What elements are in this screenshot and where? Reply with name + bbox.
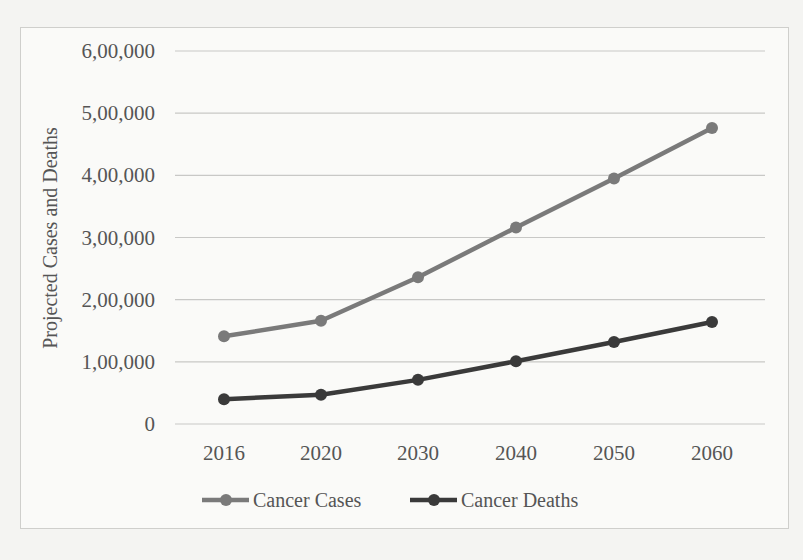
y-axis-ticks: 01,00,0002,00,0003,00,0004,00,0005,00,00… [82,39,156,436]
data-point [412,271,424,283]
legend-item: Cancer Cases [202,489,362,511]
data-point [608,172,620,184]
y-tick-label: 6,00,000 [82,39,156,63]
y-tick-label: 3,00,000 [82,226,156,250]
x-tick-label: 2040 [495,441,537,465]
data-point [706,316,718,328]
x-tick-label: 2060 [691,441,733,465]
legend: Cancer CasesCancer Deaths [202,489,578,511]
data-point [608,336,620,348]
line-chart: 01,00,0002,00,0003,00,0004,00,0005,00,00… [0,0,803,560]
data-point [706,122,718,134]
y-tick-label: 2,00,000 [82,288,156,312]
series-cancer-cases [218,122,718,342]
legend-item: Cancer Deaths [410,489,578,511]
y-axis-title: Projected Cases and Deaths [39,127,62,349]
x-tick-label: 2016 [203,441,245,465]
legend-marker-icon [428,494,440,506]
data-point [218,330,230,342]
legend-marker-icon [220,494,232,506]
series-lines [218,122,718,405]
data-point [315,315,327,327]
data-point [510,355,522,367]
y-tick-label: 4,00,000 [82,163,156,187]
series-cancer-deaths [218,316,718,405]
legend-label: Cancer Cases [253,489,362,511]
y-tick-label: 5,00,000 [82,101,156,125]
x-tick-label: 2030 [397,441,439,465]
x-tick-label: 2050 [593,441,635,465]
legend-label: Cancer Deaths [461,489,578,511]
data-point [315,389,327,401]
y-tick-label: 1,00,000 [82,350,156,374]
y-tick-label: 0 [145,412,156,436]
x-axis-ticks: 201620202030204020502060 [203,441,733,465]
data-point [510,222,522,234]
data-point [218,393,230,405]
x-tick-label: 2020 [300,441,342,465]
data-point [412,374,424,386]
